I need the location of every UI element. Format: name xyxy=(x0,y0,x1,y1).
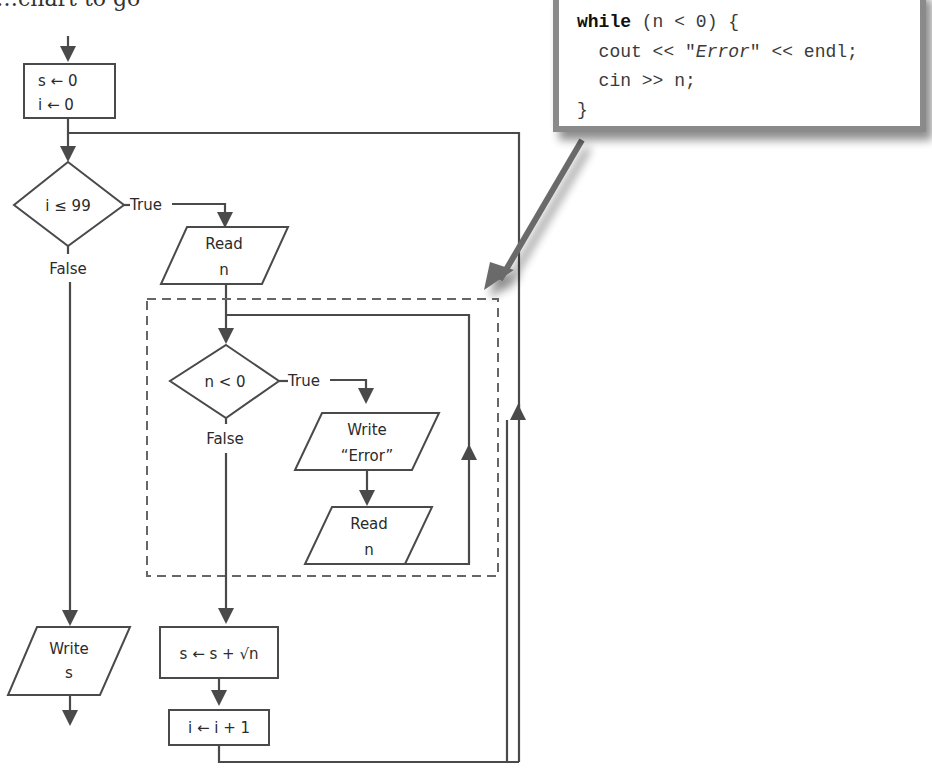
write-s-line1: Write xyxy=(49,640,89,658)
read-n-outer-line2: n xyxy=(219,261,229,279)
write-s-block: Write s xyxy=(8,627,130,695)
outer-false-label: False xyxy=(49,260,87,278)
sum-block: s ← s + √n xyxy=(160,627,278,678)
inner-decision-condition: n < 0 xyxy=(204,373,245,391)
flowchart-canvas: …chart to go s ← 0 i ← 0 i ≤ 99 True Fal… xyxy=(0,0,932,770)
connector xyxy=(172,204,225,214)
increment-block-text: i ← i + 1 xyxy=(188,719,250,737)
heading-fragment: …chart to go xyxy=(0,0,140,11)
write-error-block: Write “Error” xyxy=(295,413,439,470)
read-n-inner-line1: Read xyxy=(350,515,388,533)
callout-pointer-arrow xyxy=(484,140,582,290)
inner-decision: n < 0 xyxy=(170,345,279,418)
arrow-head xyxy=(217,212,233,228)
read-n-outer: Read n xyxy=(161,227,288,284)
read-n-outer-line1: Read xyxy=(205,235,243,253)
arrow-head xyxy=(359,490,375,506)
arrow-head xyxy=(218,328,234,344)
inner-false-label: False xyxy=(206,430,244,448)
read-n-inner-block: Read n xyxy=(305,507,432,564)
read-n-inner-line2: n xyxy=(364,541,374,559)
code-line-4: } xyxy=(577,100,588,120)
outer-decision-condition: i ≤ 99 xyxy=(45,197,90,215)
arrow-head xyxy=(62,610,78,626)
arrow-head xyxy=(211,690,227,706)
outer-true-label: True xyxy=(129,196,162,214)
entry-arrow xyxy=(60,36,76,62)
write-error-line2: “Error” xyxy=(341,447,394,465)
inner-true-label: True xyxy=(287,372,320,390)
init-block: s ← 0 i ← 0 xyxy=(24,64,115,118)
arrow-head-up xyxy=(461,444,477,460)
init-s-text: s ← 0 xyxy=(38,72,77,90)
init-i-text: i ← 0 xyxy=(38,96,74,114)
write-s-line2: s xyxy=(65,664,73,682)
increment-block: i ← i + 1 xyxy=(169,710,269,745)
arrow-head xyxy=(60,146,76,162)
sum-block-text: s ← s + √n xyxy=(180,645,259,663)
code-line-1: while (n < 0) { xyxy=(577,12,739,32)
outer-decision: i ≤ 99 xyxy=(14,162,124,246)
arrow-head xyxy=(358,388,374,404)
arrow-head xyxy=(218,608,234,624)
code-line-3: cin >> n; xyxy=(577,71,696,91)
code-line-2: cout << "Error" << endl; xyxy=(577,42,858,62)
exit-arrow xyxy=(62,710,78,726)
write-error-line1: Write xyxy=(347,421,387,439)
